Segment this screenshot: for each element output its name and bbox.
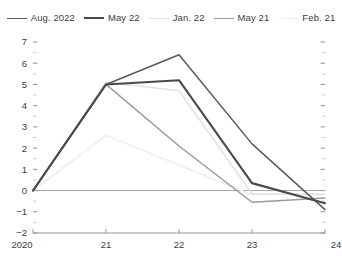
legend-item-may-22[interactable]: May 22 — [84, 13, 140, 23]
x-axis-tick-label: 2020 — [11, 239, 32, 250]
line-chart: 76543210−1−2202021222324 — [0, 30, 342, 267]
legend-item-aug-2022[interactable]: Aug. 2022 — [7, 13, 75, 23]
legend-item-may-21[interactable]: May 21 — [214, 13, 270, 23]
y-axis-tick-label: −1 — [16, 206, 27, 217]
legend-item-feb-21[interactable]: Feb. 21 — [278, 13, 335, 23]
legend-label: Jan. 22 — [173, 13, 205, 23]
x-axis-tick-label: 21 — [101, 239, 112, 250]
y-axis-tick-label: 1 — [22, 164, 27, 175]
series-line-may-22 — [33, 80, 325, 203]
plot-area: 76543210−1−2202021222324 — [0, 30, 342, 267]
legend-item-jan-22[interactable]: Jan. 22 — [149, 13, 205, 23]
series-line-aug-2022 — [33, 55, 325, 210]
series-line-jan-22 — [33, 82, 325, 194]
y-axis-tick-label: 6 — [22, 58, 27, 69]
legend-label: Aug. 2022 — [31, 13, 75, 23]
y-axis-tick-label: 0 — [22, 185, 27, 196]
legend-swatch-line-icon — [149, 18, 169, 19]
chart-root: Aug. 2022May 22Jan. 22May 21Feb. 21 7654… — [0, 0, 342, 267]
y-axis-tick-label: −2 — [16, 227, 27, 238]
chart-legend: Aug. 2022May 22Jan. 22May 21Feb. 21 — [0, 8, 342, 28]
y-axis-tick-label: 4 — [22, 100, 27, 111]
series-line-feb-21 — [33, 135, 325, 194]
legend-swatch-line-icon — [278, 18, 298, 19]
x-axis-tick-label: 24 — [331, 239, 342, 250]
legend-swatch-line-icon — [214, 18, 234, 19]
legend-label: May 22 — [108, 13, 140, 23]
y-axis-tick-label: 5 — [22, 79, 27, 90]
y-axis-tick-label: 2 — [22, 143, 27, 154]
x-axis-tick-label: 23 — [247, 239, 258, 250]
y-axis-tick-label: 3 — [22, 121, 27, 132]
series-line-may-21 — [33, 84, 325, 202]
legend-label: Feb. 21 — [302, 13, 335, 23]
x-axis-tick-label: 22 — [174, 239, 185, 250]
legend-label: May 21 — [238, 13, 270, 23]
legend-swatch-line-icon — [84, 17, 104, 19]
y-axis-tick-label: 7 — [22, 36, 27, 47]
legend-swatch-line-icon — [7, 18, 27, 19]
